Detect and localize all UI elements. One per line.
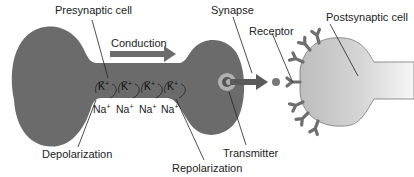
potassium-ion: K+ — [121, 80, 132, 92]
synapse-diagram: Presynaptic cell Conduction Synapse Rece… — [0, 0, 414, 177]
receptor-label: Receptor — [249, 26, 294, 37]
potassium-ion: K+ — [98, 80, 109, 92]
synapse-label: Synapse — [211, 5, 254, 16]
transmitter-molecule-icon — [272, 78, 280, 86]
depolarization-label: Depolarization — [42, 149, 112, 160]
presynaptic-cell-label: Presynaptic cell — [55, 5, 132, 16]
transmitter-label: Transmitter — [223, 148, 278, 159]
potassium-ion: K+ — [167, 80, 178, 92]
repolarization-label: Repolarization — [172, 163, 242, 174]
postsynaptic-cell-label: Postsynaptic cell — [326, 12, 408, 23]
sodium-ion: Na+ — [93, 103, 111, 115]
potassium-ion: K+ — [144, 80, 155, 92]
sodium-ion: Na+ — [116, 103, 134, 115]
conduction-label: Conduction — [111, 38, 167, 49]
postsynaptic-cell-shape — [300, 38, 414, 126]
sodium-ion: Na+ — [139, 103, 157, 115]
sodium-ion: Na+ — [161, 103, 179, 115]
